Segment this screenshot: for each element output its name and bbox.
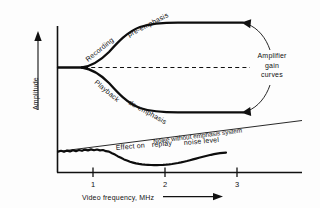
amplifier-callout-arrow-lower bbox=[248, 85, 271, 111]
effect-label-part1: Effect on bbox=[115, 141, 145, 151]
x-tick-label-2: 2 bbox=[163, 180, 167, 189]
x-tick-label-1: 1 bbox=[91, 180, 95, 189]
effect-label-part2: replay bbox=[151, 139, 172, 149]
effect-on-replay-noise-curve bbox=[58, 149, 226, 165]
pre-emphasis-label: pre-emphasis bbox=[126, 11, 170, 39]
amplifier-gain-curves-annotation: Amplifier gain curves bbox=[242, 19, 287, 116]
x-axis-title: Video frequency, MHz bbox=[82, 194, 155, 202]
y-axis-arrow-head bbox=[34, 31, 41, 41]
amplifier-label-line3: curves bbox=[261, 71, 283, 78]
amplifier-callout-arrowhead-upper bbox=[242, 19, 252, 28]
emphasis-gain-curves-figure: 1 2 3 Amplitude Video frequency, MHz Rec… bbox=[0, 0, 320, 208]
amplifier-label-line1: Amplifier bbox=[257, 52, 286, 60]
y-axis-title: Amplitude bbox=[32, 77, 40, 110]
x-axis-arrow-head bbox=[213, 193, 223, 200]
x-axis-label-group: Video frequency, MHz bbox=[82, 193, 223, 202]
amplifier-label-line2: gain bbox=[265, 62, 279, 70]
x-tick-label-3: 3 bbox=[235, 180, 239, 189]
amplifier-callout-arrow-upper bbox=[248, 24, 271, 50]
y-axis-label-group: Amplitude bbox=[32, 31, 42, 110]
